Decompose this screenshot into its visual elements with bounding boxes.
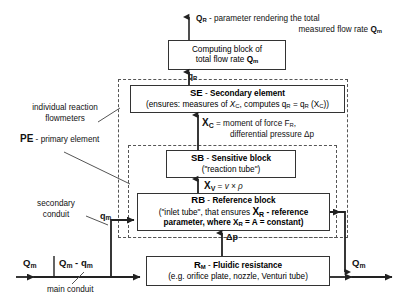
pe-name: primary element: [41, 135, 100, 144]
rb-detail-pre: ("inlet tube", that ensures: [159, 208, 253, 217]
diagram-canvas: QR - parameter rendering the total measu…: [0, 0, 399, 301]
sb-code: SB: [191, 152, 204, 163]
rb-code: RB: [191, 194, 205, 205]
main-conduit-text: main conduit: [47, 285, 93, 294]
qm-inlet-flow-label: Qm: [23, 258, 36, 269]
individual-flowmeters-line2: flowmeters: [18, 114, 112, 125]
qr-output-annotation: QR - parameter rendering the total measu…: [196, 14, 396, 35]
main-conduit-label: main conduit: [47, 285, 93, 296]
delta-p-signal-label: Δp: [226, 232, 238, 243]
leader-main-conduit: [72, 272, 84, 284]
qm-outlet-flow-label: Qm: [352, 258, 365, 269]
rb-detail-line1: ("inlet tube", that ensures XR - referen…: [159, 207, 309, 219]
computing-block-line2: total flow rate Qm: [196, 55, 259, 66]
se-detail-paren: (X: [309, 100, 319, 109]
rb-detail-line2: parameter, where XR = A = constant): [163, 218, 303, 229]
secondary-conduit-label: secondary conduit: [20, 199, 92, 220]
computing-block-qm-subscript: m: [253, 58, 258, 64]
pe-dash: -: [33, 135, 40, 144]
qm-outlet-subscript: m: [359, 262, 365, 269]
rm-title: RM - Fluidic resistance: [194, 260, 282, 272]
computing-block-line1: Computing block of: [192, 45, 262, 56]
secondary-conduit-line1: secondary: [20, 199, 92, 210]
rb-detail-post: - reference: [264, 208, 308, 217]
individual-flowmeters-label: individual reaction flowmeters: [18, 103, 112, 124]
se-code: SE: [190, 87, 203, 98]
rb-detail-line2-post: = A = constant): [243, 218, 304, 227]
qm-inlet-subscript: m: [30, 262, 36, 269]
qm-minus-qm-flow-label: Qm - qm: [59, 258, 93, 269]
sensitive-block[interactable]: SB - Sensitive block ("reaction tube"): [166, 150, 296, 178]
rb-name: Reference block: [212, 196, 275, 205]
se-name: Secondary element: [210, 89, 285, 98]
qm-subscript-top: m: [377, 28, 382, 34]
se-detail-end: )): [324, 100, 329, 109]
xc-text-comma: ,: [294, 119, 296, 128]
pe-code: PE: [20, 133, 33, 144]
xv-equals: =: [215, 182, 224, 191]
se-title: SE - Secondary element: [190, 88, 285, 100]
fluidic-resistance-block[interactable]: RM - Fluidic resistance (e.g. orifice pl…: [146, 256, 330, 286]
rm-name: Fluidic resistance: [213, 261, 282, 270]
se-dash: -: [203, 89, 210, 98]
xc-symbol: X: [202, 117, 209, 128]
qr-signal-subscript: R: [193, 75, 197, 81]
rb-title: RB - Reference block: [191, 195, 275, 207]
rm-detail: (e.g. orifice plate, nozzle, Venturi tub…: [168, 272, 308, 283]
xc-text-line2: differential pressure Δp: [230, 130, 314, 139]
rb-detail-line2-pre: parameter, where X: [163, 218, 238, 227]
qr-signal-label: qR: [188, 72, 197, 83]
rm-dash: -: [206, 261, 213, 270]
se-detail: (ensures: measures of XC, computes qR = …: [146, 100, 329, 111]
reference-block[interactable]: RB - Reference block ("inlet tube", that…: [137, 193, 330, 231]
qm-secondary-flow-label: qm: [100, 211, 111, 222]
secondary-conduit-line2: conduit: [20, 210, 92, 221]
se-detail-pre: (ensures: measures of: [146, 100, 230, 109]
xv-signal-annotation: XV = v × ρ: [204, 181, 243, 193]
qm-secondary-subscript: m: [106, 214, 112, 221]
se-detail-eq: = q: [291, 100, 305, 109]
sb-detail: ("reaction tube"): [202, 165, 261, 176]
qm-minus-subscript2: m: [87, 262, 93, 269]
secondary-element-block[interactable]: SE - Secondary element (ensures: measure…: [130, 85, 345, 113]
xv-expression: v × ρ: [225, 182, 243, 191]
xv-symbol: X: [204, 180, 211, 191]
delta-p-text: Δp: [226, 232, 238, 242]
primary-element-label: PE - primary element: [20, 134, 99, 146]
computing-block-line2-pre: total flow rate: [196, 55, 247, 64]
computing-block[interactable]: Computing block of total flow rate Qm: [168, 40, 286, 70]
qm-minus-rest: - q: [72, 257, 86, 268]
rm-code: R: [194, 259, 201, 270]
xc-text-pre: = moment of force F: [214, 119, 290, 128]
sb-title: SB - Sensitive block: [191, 153, 271, 165]
individual-flowmeters-line1: individual reaction: [18, 103, 112, 114]
xc-signal-annotation: XC = moment of force FR, differential pr…: [202, 118, 314, 140]
qr-output-text-line2: measured flow rate: [298, 25, 370, 34]
qr-output-text-line1: - parameter rendering the total: [207, 14, 320, 23]
se-detail-mid: , computes q: [239, 100, 286, 109]
sb-name: Sensitive block: [211, 154, 271, 163]
